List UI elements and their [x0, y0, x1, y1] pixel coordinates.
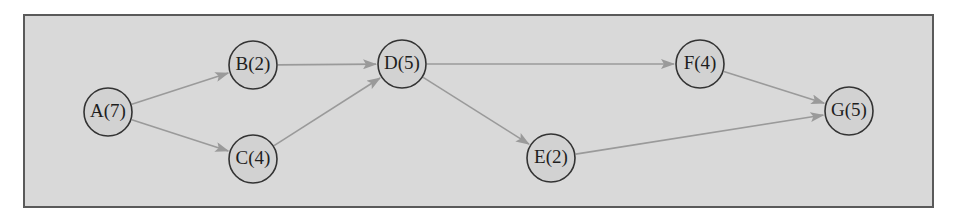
diagram-frame	[24, 15, 933, 207]
node-label: E(2)	[534, 146, 568, 168]
node-label: G(5)	[831, 99, 867, 121]
node-label: C(4)	[236, 147, 271, 169]
node-e: E(2)	[527, 134, 575, 182]
network-diagram: A(7)B(2)C(4)D(5)E(2)F(4)G(5)	[0, 0, 957, 216]
node-b: B(2)	[229, 41, 277, 89]
node-d: D(5)	[378, 40, 426, 88]
node-label: A(7)	[90, 100, 126, 122]
node-label: F(4)	[684, 52, 717, 74]
edge-b-d	[278, 64, 376, 65]
node-label: D(5)	[384, 52, 420, 74]
node-a: A(7)	[84, 88, 132, 136]
node-g: G(5)	[825, 87, 873, 135]
node-f: F(4)	[676, 40, 724, 88]
node-c: C(4)	[229, 135, 277, 183]
node-label: B(2)	[236, 53, 271, 75]
